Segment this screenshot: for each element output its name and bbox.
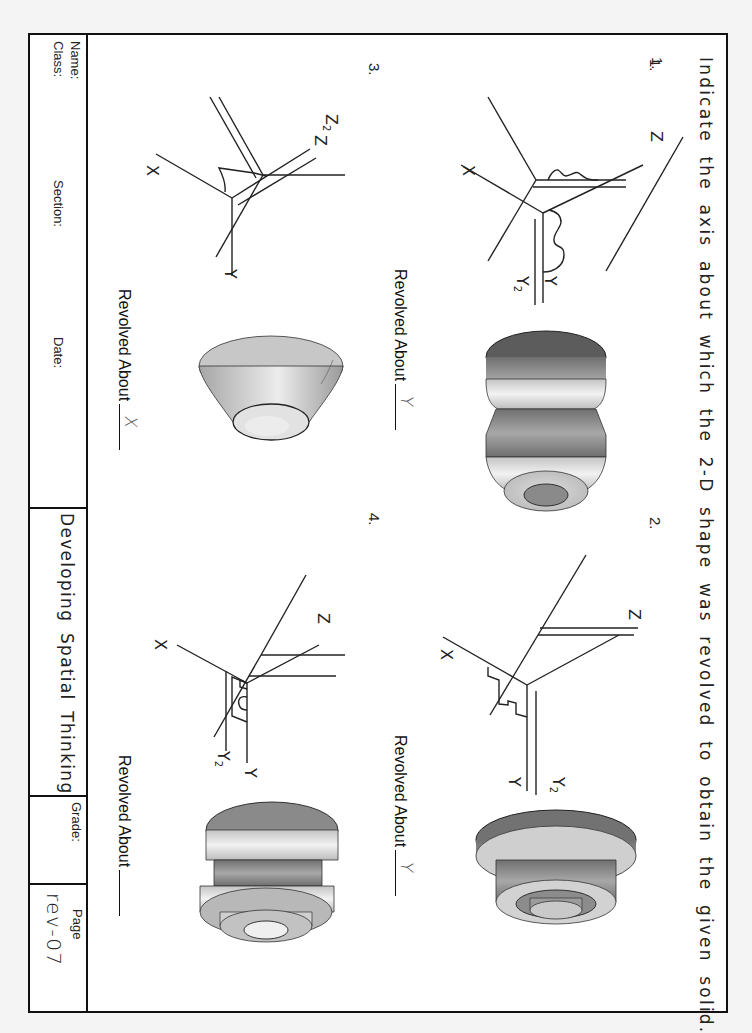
title-block-page-cell: Page rev-07: [30, 883, 86, 1011]
page-value: rev-07: [42, 893, 66, 967]
date-label: Date:: [51, 337, 66, 368]
solid-problem-1: [486, 331, 606, 511]
solid-problem-3: [199, 336, 343, 440]
title-block-info-cell: Name: Class: Section: Date:: [30, 35, 86, 505]
title-block-grade-cell: Grade:: [30, 795, 86, 883]
solids-layer: [26, 35, 726, 1015]
title-block: Name: Class: Section: Date: Developing S…: [30, 35, 88, 1011]
worksheet-page: Indicate the axis about which the 2-D sh…: [28, 33, 728, 1013]
solid-problem-2: [476, 810, 636, 924]
section-label: Section:: [51, 180, 66, 227]
name-label: Name:: [68, 41, 83, 79]
grade-label: Grade:: [69, 802, 84, 842]
class-label: Class:: [51, 41, 66, 77]
worksheet-title: Developing Spatial Thinking: [57, 513, 77, 795]
page-label: Page: [70, 909, 85, 939]
solid-problem-4: [200, 802, 338, 942]
title-block-title-cell: Developing Spatial Thinking: [30, 507, 86, 797]
